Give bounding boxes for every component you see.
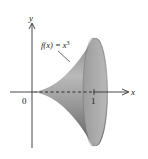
y-axis-label: y	[28, 13, 33, 23]
x-tick-label-1: 1	[91, 96, 96, 106]
function-label-exponent: 3	[67, 40, 70, 46]
function-leader-line	[58, 51, 70, 62]
function-label-main: f(x) = x	[41, 40, 67, 50]
origin-label: 0	[22, 96, 27, 106]
x-axis-label: x	[130, 87, 135, 97]
solid-of-revolution-diagram: y x 0 1 f(x) = x3	[0, 0, 148, 159]
function-label: f(x) = x3	[41, 40, 70, 51]
